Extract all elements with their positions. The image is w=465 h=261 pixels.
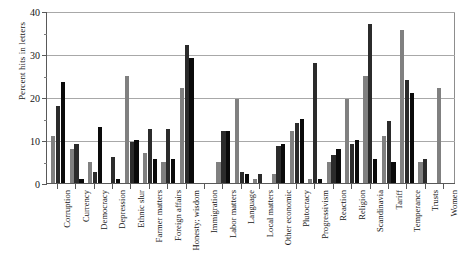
x-axis-label: Trusts: [416, 190, 434, 261]
x-axis-tick: [232, 184, 250, 189]
bar-group: [251, 12, 269, 183]
x-axis-tick: [435, 184, 453, 189]
bar: [272, 174, 276, 183]
bar: [258, 174, 262, 183]
bar: [171, 159, 175, 183]
bar-chart-figure: Percent hits in letters 010203040 Corrup…: [0, 0, 465, 261]
x-axis-tick: [306, 184, 324, 189]
bar: [355, 140, 359, 183]
x-axis-tick: [48, 184, 66, 189]
bar: [382, 136, 386, 183]
bar: [373, 159, 377, 183]
x-axis-label: Currency: [66, 190, 84, 261]
bar-group: [233, 12, 251, 183]
bar-group: [416, 12, 434, 183]
x-axis-label: Democracy: [85, 190, 103, 261]
x-axis-label-text: Women: [449, 190, 459, 216]
x-axis-label: Scandinavia: [361, 190, 379, 261]
bar: [418, 162, 422, 184]
x-axis-label: Plutocracy: [287, 190, 305, 261]
x-axis-tick: [398, 184, 416, 189]
bar: [245, 174, 249, 183]
bar-group: [49, 12, 67, 183]
x-axis-label: Farmer matters: [140, 190, 158, 261]
x-axis-tick: [195, 184, 213, 189]
bar: [134, 140, 138, 183]
x-axis-tick: [250, 184, 268, 189]
x-axis-label: Immigration: [195, 190, 213, 261]
y-axis-tick-label: 0: [35, 179, 40, 190]
bar: [88, 162, 92, 184]
y-axis-tick-label: 30: [30, 50, 40, 61]
bar: [387, 121, 391, 183]
bar-group: [324, 12, 342, 183]
bar: [437, 88, 441, 183]
bar: [295, 123, 299, 183]
bar: [253, 179, 257, 183]
bar: [276, 146, 280, 183]
x-axis-label: Local matters: [250, 190, 268, 261]
bar-group: [178, 12, 196, 183]
x-axis-tick: [140, 184, 158, 189]
x-axis-tick: [214, 184, 232, 189]
bar-group: [343, 12, 361, 183]
bar: [116, 179, 120, 183]
x-axis-label: Labor matters: [214, 190, 232, 261]
bar-group: [306, 12, 324, 183]
bar-group: [141, 12, 159, 183]
bar: [180, 88, 184, 183]
bar: [166, 129, 170, 183]
x-axis-label: Other economic: [269, 190, 287, 261]
x-axis-label: Reaction: [324, 190, 342, 261]
bar: [93, 172, 97, 183]
bar: [74, 144, 78, 183]
bar: [363, 76, 367, 184]
x-axis-tick: [103, 184, 121, 189]
bar-group: [159, 12, 177, 183]
bar: [61, 82, 65, 183]
y-axis-tick-label: 10: [30, 136, 40, 147]
x-axis-tick: [379, 184, 397, 189]
bar: [410, 93, 414, 183]
x-axis-tick: [66, 184, 84, 189]
bar: [400, 30, 404, 183]
x-axis-ticks: [46, 184, 455, 189]
y-axis-tick-label: 20: [30, 93, 40, 104]
bar: [185, 45, 189, 183]
x-axis-label: Ethnic slur: [122, 190, 140, 261]
x-axis-label: Language: [232, 190, 250, 261]
bar: [51, 136, 55, 183]
bar: [336, 149, 340, 183]
x-axis-tick: [158, 184, 176, 189]
x-axis-tick: [85, 184, 103, 189]
bar: [300, 119, 304, 184]
bar-group: [398, 12, 416, 183]
bar-group: [196, 12, 214, 183]
bar: [308, 179, 312, 183]
x-axis-label: Corruption: [48, 190, 66, 261]
y-axis-title: Percent hits in letters: [17, 0, 27, 131]
x-axis-label: Depression: [103, 190, 121, 261]
plot-area: 010203040: [46, 12, 455, 184]
bar: [235, 99, 239, 183]
bar: [313, 63, 317, 183]
x-axis-tick: [269, 184, 287, 189]
bar: [318, 179, 322, 183]
bar: [226, 131, 230, 183]
bar: [79, 179, 83, 183]
x-axis-label: Religion: [343, 190, 361, 261]
bar: [405, 80, 409, 183]
bar: [391, 162, 395, 184]
bar: [221, 131, 225, 183]
bar: [216, 162, 220, 184]
x-axis-tick: [361, 184, 379, 189]
x-axis-labels: CorruptionCurrencyDemocracyDepressionEth…: [46, 190, 455, 261]
bar-group: [379, 12, 397, 183]
bar: [143, 153, 147, 183]
bar-group: [104, 12, 122, 183]
bar: [423, 159, 427, 183]
bar: [125, 76, 129, 184]
bar: [70, 149, 74, 183]
x-axis-tick: [177, 184, 195, 189]
bar-group: [288, 12, 306, 183]
